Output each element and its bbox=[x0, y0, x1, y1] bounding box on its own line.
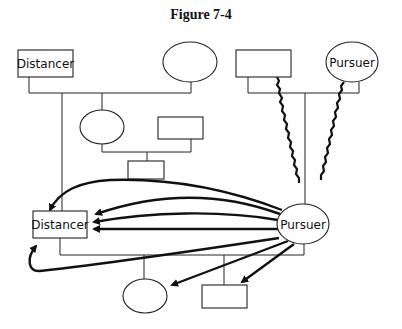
node-center-distancer: Distancer bbox=[31, 211, 88, 238]
node-top-left-distancer: Distancer bbox=[17, 50, 74, 77]
top-right-rect bbox=[236, 50, 291, 77]
bottom-rect bbox=[202, 285, 247, 308]
top-left-label: Distancer bbox=[17, 57, 74, 71]
top-left-ellipse bbox=[163, 42, 217, 82]
arrow-curve-top bbox=[50, 180, 282, 210]
node-center-pursuer: Pursuer bbox=[277, 204, 329, 244]
small-child-rect bbox=[128, 161, 164, 179]
center-distancer-label: Distancer bbox=[31, 218, 88, 232]
bottom-ellipse bbox=[123, 279, 167, 313]
center-pursuer-label: Pursuer bbox=[280, 218, 326, 232]
family-lines bbox=[29, 77, 359, 285]
top-right-label: Pursuer bbox=[329, 56, 375, 70]
mid-rect bbox=[158, 117, 203, 139]
genogram-diagram: Distancer Pursuer Distancer Pursuer bbox=[0, 0, 402, 329]
mid-ellipse bbox=[80, 110, 124, 144]
arrow-to-bottom-ellipse bbox=[172, 241, 288, 285]
wavy-conflict-line-right bbox=[321, 82, 344, 180]
arrow-to-distancer-2 bbox=[94, 213, 278, 222]
top-left-marriage-line bbox=[29, 77, 191, 93]
node-top-right-pursuer: Pursuer bbox=[326, 42, 378, 82]
